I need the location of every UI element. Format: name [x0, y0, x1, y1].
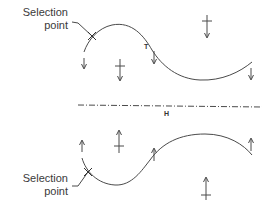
up-arrow-icon — [80, 140, 85, 152]
down-arrow-icon — [152, 51, 157, 64]
axis-label: H — [164, 110, 169, 117]
cross-up-arrow-icon — [114, 130, 124, 153]
top-selection-label-line2: point — [14, 19, 68, 32]
tangent-label: T — [144, 43, 148, 50]
bottom-curve — [82, 134, 252, 185]
bottom-selection-point-label: Selection point — [8, 172, 68, 198]
cross-up-arrow-icon — [201, 177, 211, 200]
top-selection-label-line1: Selection — [14, 6, 68, 19]
bottom-selection-label-line2: point — [8, 185, 68, 198]
top-curve — [84, 24, 252, 80]
horizontal-axis-dashdot-line — [78, 105, 262, 107]
bottom-curve-group — [72, 130, 254, 200]
top-selection-point-label: Selection point — [14, 6, 68, 32]
cross-down-arrow-icon — [202, 15, 212, 38]
cross-down-arrow-icon — [115, 59, 125, 81]
up-arrow-icon — [249, 138, 254, 151]
bottom-selection-point-marker[interactable] — [84, 168, 92, 176]
top-curve-group — [72, 15, 254, 81]
top-selection-leader-line — [72, 22, 92, 36]
up-arrow-icon — [152, 148, 157, 161]
down-arrow-icon — [82, 58, 87, 69]
down-arrow-icon — [249, 68, 254, 80]
bottom-selection-label-line1: Selection — [8, 172, 68, 185]
top-selection-point-marker[interactable] — [88, 32, 96, 40]
